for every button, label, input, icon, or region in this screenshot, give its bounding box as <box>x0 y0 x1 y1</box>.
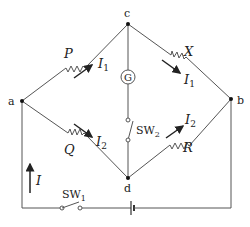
galvanometer-label: G <box>124 72 132 83</box>
current-I1-label-X: I1 <box>183 72 195 89</box>
node-d-dot <box>126 176 130 180</box>
node-b-label: b <box>237 94 244 107</box>
resistor-Q <box>22 101 128 178</box>
resistor-R <box>128 99 231 178</box>
current-I1-label-P: I1 <box>97 56 109 73</box>
resistor-Q-label: Q <box>64 142 75 157</box>
switch-sw2-label: SW2 <box>136 124 160 139</box>
circuit-diagram: a b c d P X Q R I1 I1 I2 I2 I G SW2 SW1 <box>0 0 250 227</box>
node-c-dot <box>126 22 130 26</box>
switch-sw2-blade <box>128 121 133 140</box>
outer-loop <box>22 99 231 215</box>
resistor-R-label: R <box>182 140 193 155</box>
node-d-label: d <box>124 182 131 195</box>
galvanometer-branch <box>121 24 135 178</box>
resistor-P <box>22 24 128 101</box>
resistor-P-label: P <box>63 46 73 61</box>
current-arrow-I2-R <box>166 126 183 138</box>
resistor-X <box>128 24 231 99</box>
node-a-label: a <box>8 95 15 108</box>
node-c-label: c <box>124 7 130 20</box>
switch-sw1-label: SW1 <box>62 188 86 203</box>
node-a-dot <box>20 99 24 103</box>
resistor-X-label: X <box>183 44 194 59</box>
current-arrow-I1-X <box>162 60 180 73</box>
total-current-label: I <box>35 173 42 188</box>
switch-sw1-blade <box>62 202 79 208</box>
current-I2-label-Q: I2 <box>95 134 107 151</box>
current-I2-label-R: I2 <box>184 112 196 129</box>
node-b-dot <box>229 97 233 101</box>
